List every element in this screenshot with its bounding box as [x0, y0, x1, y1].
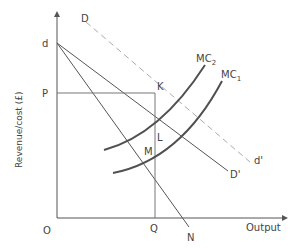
marginal-revenue-line-d-N — [57, 43, 189, 227]
mc1-curve — [113, 81, 222, 173]
label-P: P — [42, 88, 48, 99]
label-M: M — [144, 146, 153, 157]
label-mc1: MC1 — [221, 69, 241, 83]
demand-curve-D-dprime — [86, 22, 250, 162]
label-mc2: MC2 — [196, 53, 216, 67]
kinked-demand-diagram: D d P K L M Q N O Output d' D' MC2 MC1 R… — [0, 0, 299, 248]
label-dprime: d' — [254, 155, 263, 166]
label-N: N — [187, 232, 194, 243]
y-axis-title: Revenue/cost (£) — [14, 91, 24, 168]
label-Dprime: D' — [230, 169, 240, 180]
label-Q: Q — [150, 223, 158, 234]
label-K: K — [157, 81, 164, 92]
label-output: Output — [246, 222, 281, 233]
label-D: D — [81, 13, 89, 24]
label-d: d — [42, 38, 48, 49]
label-O: O — [43, 225, 51, 236]
label-L: L — [157, 132, 163, 143]
